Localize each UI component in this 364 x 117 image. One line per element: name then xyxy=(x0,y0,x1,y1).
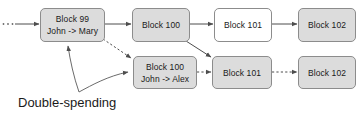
block-block-100-fork[interactable]: Block 100 John -> Alex xyxy=(133,56,197,89)
callout-curve-to-block-99 xyxy=(68,46,79,92)
block-block-101-main[interactable]: Block 101 xyxy=(214,8,272,42)
double-spending-caption: Double-spending xyxy=(18,95,116,110)
block-title: Block 101 xyxy=(224,19,262,31)
block-block-102-fork[interactable]: Block 102 xyxy=(298,56,356,89)
block-block-100-main[interactable]: Block 100 xyxy=(132,8,190,42)
block-title: Block 102 xyxy=(308,19,346,31)
block-title: Block 101 xyxy=(223,67,261,79)
block-block-101-fork[interactable]: Block 101 xyxy=(212,56,272,89)
block-block-99[interactable]: Block 99 John -> Mary xyxy=(40,8,105,42)
block-title: Block 99 xyxy=(56,13,89,25)
connector-block-99-to-block-100-fork xyxy=(103,39,131,58)
connector-block-100-to-block-101-fork xyxy=(186,41,211,57)
block-title: Block 100 xyxy=(142,19,180,31)
callout-curve-to-block-100-fork xyxy=(79,72,128,92)
block-title: Block 102 xyxy=(308,67,346,79)
diagram-canvas: Block 99 John -> Mary Block 100 Block 10… xyxy=(0,0,364,117)
block-subtitle: John -> Mary xyxy=(47,25,98,37)
block-title: Block 100 xyxy=(146,61,184,73)
leading-ellipsis xyxy=(3,23,14,25)
block-block-102-main[interactable]: Block 102 xyxy=(298,8,356,42)
block-subtitle: John -> Alex xyxy=(141,73,189,85)
